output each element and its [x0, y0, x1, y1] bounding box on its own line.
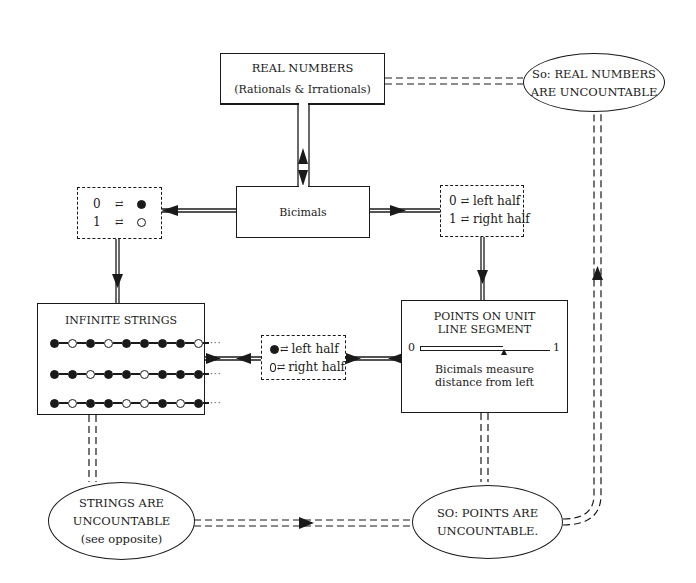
digit-dot-mapping-box: 0 ⇄ 1 ⇄	[77, 187, 162, 239]
filled-circle-icon	[270, 345, 279, 354]
bicimals-notch-cover	[299, 185, 308, 188]
mapping-row-0: 0 ⇄	[93, 195, 161, 213]
bidirectional-arrow-icon: ⇄	[115, 195, 137, 213]
bidirectional-arrow-icon: ⇄	[115, 213, 137, 231]
real-numbers-subtitle: (Rationals & Irrationals)	[221, 83, 384, 96]
continuation-ellipsis: ···	[210, 369, 222, 379]
conclusion-line1: So: REAL NUMBERS	[532, 65, 656, 83]
left-half-label: left half	[473, 192, 520, 210]
bicimals-label: Bicimals	[279, 206, 326, 219]
continuation-ellipsis: ···	[210, 338, 222, 348]
filled-circle-icon	[137, 200, 146, 209]
right-half-label: right half	[473, 210, 530, 228]
real-numbers-box-bottom-left	[220, 103, 299, 105]
points-uncountable-ellipse: SO: POINTS ARE UNCOUNTABLE.	[412, 485, 563, 559]
continuation-ellipsis: ···	[210, 398, 222, 408]
bidirectional-arrow-icon: ⇄	[277, 358, 285, 376]
infinite-strings-title: INFINITE STRINGS	[38, 314, 204, 327]
mapping-row-filled: ⇄ left half	[270, 340, 345, 358]
bit-string-row: ···	[50, 396, 222, 410]
line-right-label: 1	[553, 341, 560, 354]
caption-line1: Bicimals measure	[402, 363, 567, 376]
digit-one: 1	[93, 213, 115, 231]
unit-segment-title-line1: POINTS ON UNIT	[402, 310, 567, 323]
point-marker-icon	[501, 349, 507, 355]
unit-line: 0 1	[402, 341, 567, 359]
real-numbers-uncountable-ellipse: So: REAL NUMBERS ARE UNCOUNTABLE	[523, 53, 665, 112]
unit-segment-title-line2: LINE SEGMENT	[402, 323, 567, 336]
bit-string-row: ···	[50, 336, 222, 350]
line-segment	[420, 350, 550, 351]
bidirectional-arrow-icon: ⇄	[461, 210, 469, 228]
conclusion-line2: UNCOUNTABLE.	[437, 522, 538, 540]
bit-string-row: ···	[50, 367, 222, 381]
conclusion-line2: ARE UNCOUNTABLE	[531, 83, 658, 101]
conclusion-line3: (see opposite)	[81, 530, 163, 548]
bidirectional-arrow-icon: ⇄	[461, 192, 469, 210]
hollow-circle-icon	[270, 363, 276, 372]
mapping-row-0: 0 ⇄ left half	[449, 192, 523, 210]
conclusion-line2: UNCOUNTABLE	[73, 512, 171, 530]
mapping-row-hollow: ⇄ right half	[270, 358, 345, 376]
conclusion-line1: STRINGS ARE	[79, 494, 164, 512]
hollow-circle-icon	[137, 218, 146, 227]
left-half-label: left half	[291, 340, 338, 358]
dot-half-mapping-box: ⇄ left half ⇄ right half	[261, 335, 346, 380]
conclusion-line1: SO: POINTS ARE	[437, 504, 538, 522]
bicimals-box: Bicimals	[236, 186, 370, 238]
right-half-label: right half	[288, 358, 345, 376]
caption-line2: distance from left	[402, 376, 567, 389]
digit-zero: 0	[93, 195, 115, 213]
line-left-label: 0	[408, 341, 415, 354]
bidirectional-arrow-icon: ⇄	[280, 340, 288, 358]
digit-zero: 0	[449, 192, 457, 210]
real-numbers-title: REAL NUMBERS	[221, 61, 384, 75]
digit-one: 1	[449, 210, 457, 228]
digit-half-mapping-box: 0 ⇄ left half 1 ⇄ right half	[440, 185, 524, 237]
mapping-row-1: 1 ⇄ right half	[449, 210, 523, 228]
infinite-strings-box: INFINITE STRINGS ··· ··· ···	[37, 303, 205, 415]
real-numbers-box-bottom-right	[308, 103, 385, 105]
mapping-row-1: 1 ⇄	[93, 213, 161, 231]
real-numbers-box: REAL NUMBERS (Rationals & Irrationals)	[220, 53, 385, 105]
unit-segment-box: POINTS ON UNIT LINE SEGMENT 0 1 Bicimals…	[401, 300, 568, 413]
strings-uncountable-ellipse: STRINGS ARE UNCOUNTABLE (see opposite)	[48, 482, 195, 560]
